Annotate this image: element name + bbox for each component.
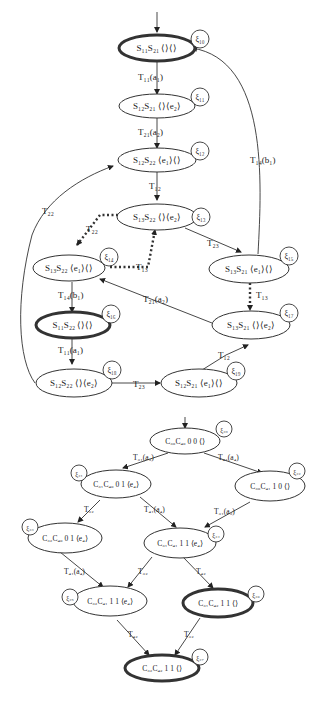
state-node-xi27: C₃₂C₄₂ 1 1 ⟨⟩ ξ₂₇ — [125, 649, 208, 681]
edge-label: T₂₂ — [42, 206, 54, 216]
edge-label: T₃₂ — [138, 567, 148, 576]
xi-label: ξ₁₃ — [196, 213, 205, 222]
edge-label: T₃₁(a₃) — [214, 507, 235, 516]
state-node-xi17: S₁₃S₂₁ ⟨⟩⟨e₂⟩ ξ₁₇ — [212, 304, 298, 339]
state-label: S₁₃S₂₂ ⟨⟩⟨e₂⟩ — [133, 212, 181, 222]
state-node-xi22: C₃₀C₄₁ 1 0 ⟨⟩ ξ₂₂ — [235, 463, 305, 501]
edge-label: T₁₄(b₁) — [58, 290, 83, 300]
xi-label: ξ₂₃ — [26, 524, 33, 532]
xi-label: ξ₁₁ — [195, 93, 204, 102]
edge-label: T₂₂ — [86, 224, 98, 234]
state-label: C₃₂C₄₀ 0 1 ⟨e₄⟩ — [42, 534, 88, 543]
edge-label: T₁₃ — [136, 262, 148, 272]
state-diagram-canvas: T₁₁(a₁) T₂₁(a₂) T₁₂ T₂₂ T₁₃ T₂₃ T₁₄(b₁) … — [0, 0, 324, 701]
bottom-state-graph: T₃₁(a₃) T₄₁(a₄) T₃₂ T₄₁(a₄) T₃₁(a₃) T₄₁(… — [22, 417, 305, 681]
state-node-xi25: C₃₂C₄₁ 1 1 ⟨e₄⟩ ξ₂₅ — [62, 586, 147, 616]
state-node-xi12: S₁₂S₂₂ ⟨e₁⟩⟨⟩ ξ₁₂ — [118, 142, 209, 172]
xi-label: ξ₂₂ — [293, 468, 300, 476]
state-node-xi16: S₁₁S₂₂ ⟨⟩⟨⟩ ξ₁₆ — [36, 305, 120, 338]
edge-label: T₃₁(a₃) — [133, 453, 154, 462]
edge-label: T₂₃ — [133, 379, 145, 389]
edge-label: T₁₂ — [149, 181, 161, 191]
state-node-xi21: C₃₁C₄₀ 0 1 ⟨e₄⟩ ξ₂₁ — [71, 465, 151, 498]
edge-label: T₂₁(a₂) — [143, 294, 168, 304]
edge-label: T₂₃ — [207, 238, 219, 248]
state-label: C₃₁C₄₂ 1 1 ⟨⟩ — [198, 599, 238, 608]
edge-label: T₁₂ — [218, 350, 230, 360]
state-node-xi24: C₃₁C₄₁ 1 1 ⟨e₄⟩ ξ₂₄ — [144, 526, 224, 558]
state-label: S₁₃S₂₁ ⟨⟩⟨e₂⟩ — [227, 320, 275, 330]
xi-label: ξ₁₀ — [195, 35, 204, 44]
edge-label: T₂₁(a₂) — [138, 127, 163, 137]
xi-label: ξ₁₆ — [106, 310, 115, 319]
state-node-xi15: S₁₃S₂₁ ⟨e₁⟩⟨⟩ ξ₁₅ — [209, 247, 298, 283]
state-label: S₁₂S₂₁ ⟨e₁⟩⟨⟩ — [175, 378, 223, 388]
state-node-xi26: C₃₁C₄₂ 1 1 ⟨⟩ ξ₂₆ — [183, 586, 264, 617]
state-label: C₃₁C₄₀ 0 1 ⟨e₄⟩ — [93, 480, 139, 489]
state-node-xi19: S₁₂S₂₁ ⟨e₁⟩⟨⟩ ξ₁₉ — [161, 362, 245, 397]
edge-label: T₁₄(b₁) — [250, 155, 275, 165]
xi-label: ξ₂₆ — [252, 591, 259, 599]
edge-label: T₁₁(a₁) — [138, 72, 163, 82]
state-label: S₁₁S₂₂ ⟨⟩⟨⟩ — [53, 320, 94, 330]
state-node-xi23: C₃₂C₄₀ 0 1 ⟨e₄⟩ ξ₂₃ — [22, 519, 102, 553]
edge-label: T₁₁(a₁) — [58, 345, 83, 355]
state-node-xi13: S₁₃S₂₂ ⟨⟩⟨e₂⟩ ξ₁₃ — [117, 204, 210, 230]
xi-label: ξ₁₉ — [231, 367, 240, 376]
state-label: C₃₁C₄₁ 1 1 ⟨e₄⟩ — [157, 539, 203, 548]
state-label: S₁₃S₂₂ ⟨e₁⟩⟨⟩ — [45, 263, 93, 273]
state-label: S₁₂S₂₁ ⟨⟩⟨e₂⟩ — [133, 101, 181, 111]
xi-label: ξ₂₅ — [66, 594, 73, 602]
state-node-xi20: C₃₀C₄₀ 0 0 ⟨⟩ ξ₂₀ — [150, 421, 232, 454]
state-node-xi18: S₁₂S₂₂ ⟨⟩⟨e₂⟩ ξ₁₈ — [36, 361, 121, 397]
state-label: S₁₂S₂₂ ⟨⟩⟨e₂⟩ — [50, 378, 98, 388]
xi-label: ξ₁₈ — [107, 366, 116, 375]
xi-label: ξ₁₇ — [284, 309, 293, 318]
xi-label: ξ₁₄ — [104, 253, 113, 262]
state-label: S₁₁S₂₁ ⟨⟩⟨⟩ — [137, 43, 178, 53]
xi-label: ξ₁₅ — [284, 252, 293, 261]
xi-label: ξ₂₁ — [75, 470, 82, 478]
edge-label: T₄₂ — [196, 567, 206, 576]
state-label: C₃₀C₄₀ 0 0 ⟨⟩ — [165, 437, 205, 446]
edge-label: T₄₁(a₄) — [144, 505, 165, 514]
xi-label: ξ₁₂ — [195, 147, 204, 156]
edge-label: T₁₃ — [256, 290, 268, 300]
xi-label: ξ₂₇ — [196, 654, 203, 662]
edge-label: T₄₂ — [128, 630, 138, 639]
edge-label: T₄₁(a₄) — [218, 453, 239, 462]
edge-label: T₃₂ — [184, 630, 194, 639]
xi-label: ξ₂₄ — [212, 531, 220, 539]
state-node-xi14: S₁₃S₂₂ ⟨e₁⟩⟨⟩ ξ₁₄ — [33, 248, 118, 281]
state-node-xi10: S₁₁S₂₁ ⟨⟩⟨⟩ ξ₁₀ — [119, 30, 209, 61]
edge-label: T₃₂ — [84, 505, 94, 514]
state-label: S₁₂S₂₂ ⟨e₁⟩⟨⟩ — [133, 155, 181, 165]
state-label: C₃₂C₄₂ 1 1 ⟨⟩ — [142, 664, 182, 673]
state-label: S₁₃S₂₁ ⟨e₁⟩⟨⟩ — [225, 264, 273, 274]
top-state-graph: T₁₁(a₁) T₂₁(a₂) T₁₂ T₂₂ T₁₃ T₂₃ T₁₄(b₁) … — [21, 12, 298, 397]
state-label: C₃₂C₄₁ 1 1 ⟨e₄⟩ — [87, 597, 133, 606]
edge-label: T₄₁(a₄) — [64, 567, 85, 576]
xi-label: ξ₂₀ — [220, 426, 227, 434]
state-label: C₃₀C₄₁ 1 0 ⟨⟩ — [250, 482, 290, 491]
state-node-xi11: S₁₂S₂₁ ⟨⟩⟨e₂⟩ ξ₁₁ — [119, 88, 209, 118]
